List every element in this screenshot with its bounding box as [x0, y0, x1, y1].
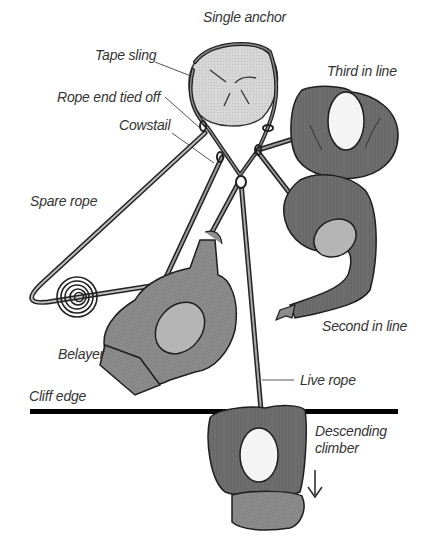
down-arrow-icon: [308, 470, 322, 497]
label-second-in-line: Second in line: [322, 318, 407, 334]
diagram-canvas: Single anchor Tape sling Third in line R…: [0, 0, 431, 536]
label-tape-sling: Tape sling: [95, 47, 156, 63]
label-third-in-line: Third in line: [327, 63, 397, 79]
label-cliff-edge: Cliff edge: [29, 388, 86, 404]
descending-climber-figure: [208, 406, 306, 530]
cliff-edge-line: [30, 409, 398, 414]
label-live-rope: Live rope: [300, 372, 356, 388]
label-spare-rope: Spare rope: [30, 193, 97, 209]
label-belayer: Belayer: [58, 346, 104, 362]
live-rope: [241, 182, 261, 410]
third-in-line-figure: [291, 86, 398, 178]
label-single-anchor: Single anchor: [203, 9, 286, 25]
belayer-figure: [100, 231, 236, 395]
label-cowstail: Cowstail: [119, 117, 170, 133]
cowstails: [160, 140, 295, 290]
illustration: [0, 0, 431, 536]
label-descending-climber-line2: climber: [315, 440, 359, 456]
label-rope-end-tied-off: Rope end tied off: [57, 89, 160, 105]
label-descending-climber-line1: Descending: [315, 423, 387, 439]
second-in-line-figure: [276, 175, 376, 320]
